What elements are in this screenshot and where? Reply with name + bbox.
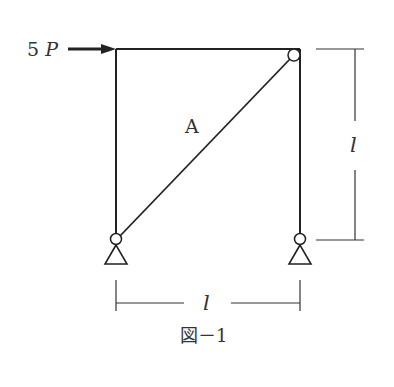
left-support-hinge-icon (111, 234, 122, 245)
right-pin-support-icon (289, 245, 311, 264)
left-pin-support-icon (105, 245, 127, 264)
diagonal-member-a (120, 59, 290, 236)
figure-caption: 図－1 (180, 325, 227, 346)
member-label: A (184, 115, 199, 137)
right-support-hinge-icon (295, 234, 306, 245)
load-label: 5 P (27, 38, 59, 60)
height-dimension (316, 49, 364, 240)
top-right-hinge-icon (288, 49, 300, 61)
height-label: l (350, 133, 357, 157)
truss-frame-diagram: 5 P A l l 図－1 (0, 0, 394, 387)
span-label: l (203, 291, 210, 315)
load-arrow-icon (68, 44, 116, 54)
